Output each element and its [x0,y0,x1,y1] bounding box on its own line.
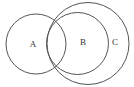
venn-diagram: A B C [0,0,134,87]
circle-b [47,13,109,75]
label-b: B [80,37,86,47]
label-c: C [112,37,118,47]
label-a: A [30,39,37,49]
